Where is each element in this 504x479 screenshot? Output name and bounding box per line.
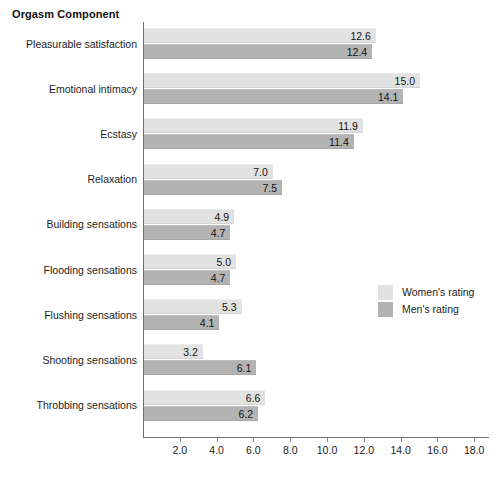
- bar-value-label: 4.9: [215, 210, 230, 225]
- bar-value-label: 6.6: [246, 391, 261, 406]
- bar-value-label: 11.4: [329, 135, 349, 150]
- bar-value-label: 14.1: [378, 90, 398, 105]
- bar-value-label: 6.1: [237, 361, 252, 376]
- bar-men: 6.1: [144, 360, 256, 375]
- x-axis-tick-label: 12.0: [354, 444, 374, 456]
- category-label: Shooting sensations: [1, 354, 137, 366]
- bar-women: 5.3: [144, 299, 242, 314]
- category-label: Relaxation: [1, 173, 137, 185]
- bar-value-label: 5.0: [216, 255, 231, 270]
- bar-men: 7.5: [144, 180, 282, 195]
- x-axis-tick-mark: [253, 438, 254, 442]
- bar-value-label: 12.6: [350, 29, 370, 44]
- legend-swatch-women: [378, 285, 393, 300]
- category-axis-labels: Pleasurable satisfactionEmotional intima…: [0, 0, 137, 479]
- x-axis-tick-mark: [290, 438, 291, 442]
- x-axis-tick-mark: [327, 438, 328, 442]
- bar-women: 3.2: [144, 344, 203, 359]
- bar-value-label: 12.4: [347, 45, 367, 60]
- bar-value-label: 4.1: [200, 316, 215, 331]
- x-axis-tick-label: 8.0: [283, 444, 298, 456]
- bar-men: 12.4: [144, 44, 372, 59]
- legend-swatch-men: [378, 302, 393, 317]
- bar-value-label: 11.9: [338, 119, 358, 134]
- bar-value-label: 3.2: [183, 345, 198, 360]
- bar-value-label: 5.3: [222, 300, 237, 315]
- bar-men: 14.1: [144, 89, 403, 104]
- bar-men: 4.7: [144, 225, 230, 240]
- category-label: Building sensations: [1, 218, 137, 230]
- bar-value-label: 7.5: [262, 181, 277, 196]
- x-axis-tick-label: 2.0: [172, 444, 187, 456]
- orgasm-component-bar-chart: Orgasm Component Pleasurable satisfactio…: [0, 0, 504, 479]
- category-label: Flooding sensations: [1, 264, 137, 276]
- bar-men: 11.4: [144, 134, 354, 149]
- x-axis-tick-mark: [364, 438, 365, 442]
- legend-label: Women's rating: [402, 284, 474, 301]
- category-label: Throbbing sensations: [1, 399, 137, 411]
- bar-value-label: 6.2: [238, 407, 253, 422]
- x-axis-tick-label: 4.0: [209, 444, 224, 456]
- legend-item: Men's rating: [378, 301, 498, 318]
- x-axis-tick-mark: [437, 438, 438, 442]
- x-axis-tick-mark: [180, 438, 181, 442]
- category-label: Emotional intimacy: [1, 83, 137, 95]
- bar-men: 4.7: [144, 270, 230, 285]
- bar-women: 15.0: [144, 73, 420, 88]
- x-axis-tick-label: 6.0: [246, 444, 261, 456]
- legend-item: Women's rating: [378, 284, 498, 301]
- category-label: Ecstasy: [1, 128, 137, 140]
- bar-value-label: 4.7: [211, 271, 226, 286]
- bar-women: 12.6: [144, 28, 376, 43]
- bar-women: 4.9: [144, 209, 234, 224]
- category-label: Pleasurable satisfaction: [1, 38, 137, 50]
- bar-women: 11.9: [144, 118, 363, 133]
- bar-men: 6.2: [144, 406, 258, 421]
- x-axis-tick-label: 10.0: [317, 444, 337, 456]
- x-axis-tick-label: 18.0: [464, 444, 484, 456]
- x-axis-tick-mark: [401, 438, 402, 442]
- bar-women: 7.0: [144, 164, 273, 179]
- x-axis-tick-mark: [217, 438, 218, 442]
- chart-legend: Women's ratingMen's rating: [378, 284, 498, 318]
- x-axis-tick-label: 16.0: [427, 444, 447, 456]
- bar-value-label: 4.7: [211, 226, 226, 241]
- x-axis-tick-label: 14.0: [390, 444, 410, 456]
- bar-women: 6.6: [144, 390, 265, 405]
- bar-value-label: 7.0: [253, 165, 268, 180]
- category-label: Flushing sensations: [1, 309, 137, 321]
- bar-women: 5.0: [144, 254, 236, 269]
- bar-men: 4.1: [144, 315, 219, 330]
- legend-label: Men's rating: [402, 301, 459, 318]
- x-axis-tick-mark: [474, 438, 475, 442]
- bar-value-label: 15.0: [395, 74, 415, 89]
